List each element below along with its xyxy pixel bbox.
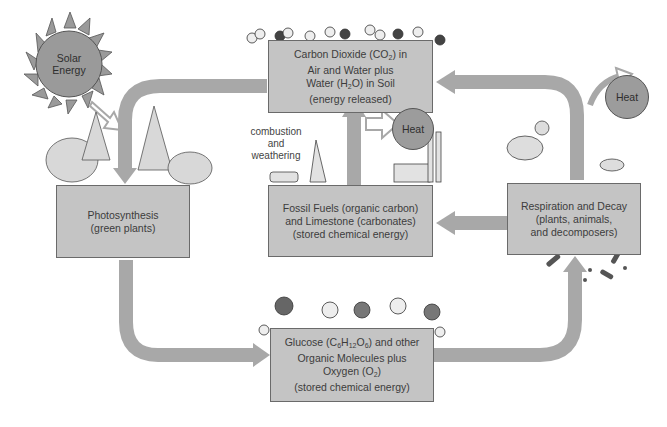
photosynthesis-line1: Photosynthesis (87, 209, 158, 222)
arrow-glucose-to-respiration (433, 270, 575, 355)
animals-illustration (507, 121, 624, 171)
heat-circle-center: Heat (392, 108, 434, 150)
glucose-line3: Oxygen (O2) (323, 365, 381, 381)
respiration-line1: Respiration and Decay (521, 200, 627, 213)
heat-center-label: Heat (402, 123, 424, 135)
arrow-photosynthesis-to-glucose (126, 260, 255, 355)
fossil-line3: (stored chemical energy) (293, 228, 409, 241)
carbon-cycle-diagram: Solar Energy Carbon Dioxide (CO2) in Air… (0, 0, 667, 427)
node-co2: Carbon Dioxide (CO2) in Air and Water pl… (268, 40, 433, 113)
co2-line4: (energy released) (309, 93, 391, 106)
node-respiration: Respiration and Decay (plants, animals, … (507, 183, 641, 255)
co2-line3: Water (H2O) in Soil (306, 77, 395, 93)
combustion-weathering-label: combustion and weathering (244, 126, 308, 162)
respiration-line2: (plants, animals, (536, 213, 612, 226)
sun-label: Solar Energy (44, 52, 94, 76)
sun-label-line2: Energy (52, 64, 85, 76)
combustion-line1: combustion (250, 126, 301, 137)
node-fossil-fuels: Fossil Fuels (organic carbon) and Limest… (268, 185, 433, 257)
fossil-line2: and Limestone (carbonates) (285, 215, 416, 228)
sun-label-line1: Solar (57, 52, 82, 64)
node-photosynthesis: Photosynthesis (green plants) (56, 185, 190, 258)
node-glucose: Glucose (C6H12O6) and other Organic Mole… (270, 328, 434, 402)
combustion-line2: and (268, 138, 285, 149)
glucose-line1: Glucose (C6H12O6) and other (285, 336, 420, 352)
glucose-line4: (stored chemical energy) (294, 381, 410, 394)
glucose-line2: Organic Molecules plus (297, 352, 406, 365)
combustion-line3: weathering (252, 150, 301, 161)
arrow-respiration-to-co2 (452, 82, 577, 180)
heat-circle-right: Heat (605, 75, 649, 119)
photosynthesis-line2: (green plants) (91, 222, 156, 235)
heat-right-label: Heat (616, 91, 638, 103)
co2-line1: Carbon Dioxide (CO2) in (294, 48, 407, 64)
fossil-line1: Fossil Fuels (organic carbon) (283, 202, 418, 215)
respiration-line3: and decomposers) (531, 226, 618, 239)
co2-line2: Air and Water plus (308, 64, 394, 77)
